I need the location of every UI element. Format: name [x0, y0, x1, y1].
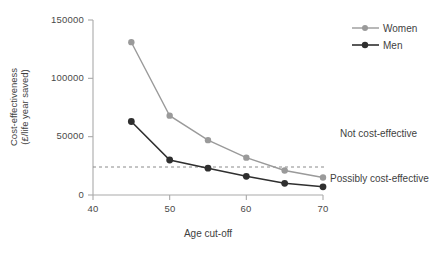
- legend-label-men: Men: [383, 40, 402, 51]
- xtick-label-70: 70: [308, 203, 338, 214]
- women-line: [131, 42, 323, 177]
- y-axis-ticks: [88, 20, 93, 195]
- ytick-label-150000: 150000: [30, 14, 84, 25]
- chart-plot-area: [0, 0, 447, 254]
- series-women: [128, 39, 326, 181]
- ytick-label-0: 0: [30, 189, 84, 200]
- men-point-50: [166, 157, 173, 164]
- legend-label-women: Women: [383, 23, 417, 34]
- men-line: [131, 122, 323, 187]
- women-point-65: [281, 167, 287, 173]
- women-data-points: [128, 39, 326, 181]
- y-axis-label-line1: Cost-effectiveness: [8, 68, 19, 146]
- women-point-55: [205, 137, 211, 143]
- ytick-label-100000: 100000: [30, 72, 84, 83]
- men-point-60: [243, 173, 250, 180]
- men-point-45: [128, 118, 135, 125]
- xtick-label-40: 40: [78, 203, 108, 214]
- men-point-70: [320, 183, 327, 190]
- y-axis-label: Cost-effectiveness (£/life year saved): [8, 42, 30, 172]
- annotation-possibly-cost-effective: Possibly cost-effective: [330, 173, 429, 184]
- men-data-points: [128, 118, 326, 190]
- women-point-70: [320, 174, 326, 180]
- y-axis-label-line2: (£/life year saved): [19, 68, 30, 146]
- ytick-label-50000: 50000: [30, 130, 84, 141]
- x-axis-ticks: [93, 195, 323, 200]
- legend-marker-women: [352, 25, 379, 31]
- annotation-not-cost-effective: Not cost-effective: [340, 128, 417, 139]
- women-point-50: [166, 112, 172, 118]
- xtick-label-50: 50: [155, 203, 185, 214]
- men-point-65: [281, 180, 288, 187]
- men-point-55: [205, 165, 212, 172]
- series-men: [128, 118, 326, 190]
- xtick-label-60: 60: [231, 203, 261, 214]
- cost-effectiveness-chart: 150000 100000 50000 0 40 50 60 70 Cost-e…: [0, 0, 447, 254]
- women-point-60: [243, 154, 249, 160]
- x-axis-label: Age cut-off: [93, 228, 323, 239]
- legend-marker-men: [352, 42, 379, 48]
- women-point-45: [128, 39, 134, 45]
